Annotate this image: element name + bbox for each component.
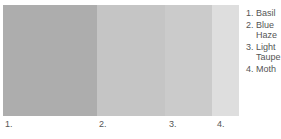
swatch-label-4: 4. xyxy=(217,119,225,130)
swatch-label-3: 3. xyxy=(169,119,177,130)
swatch-blue-haze xyxy=(97,5,165,116)
legend-name: Blue Haze xyxy=(256,20,281,40)
swatch-label-1: 1. xyxy=(5,119,13,130)
swatch-basil xyxy=(3,5,97,116)
legend-number: 4. xyxy=(246,64,256,74)
legend-item-basil: 1. Basil xyxy=(246,8,281,18)
legend-number: 1. xyxy=(246,8,256,18)
legend-number: 3. xyxy=(246,42,256,62)
legend-name: Basil xyxy=(256,8,281,18)
swatch-index-labels: 1. 2. 3. 4. xyxy=(0,119,245,133)
legend-item-moth: 4. Moth xyxy=(246,64,281,74)
color-palette-strip xyxy=(3,5,239,116)
legend-name: Moth xyxy=(256,64,281,74)
swatch-label-2: 2. xyxy=(99,119,107,130)
swatch-moth xyxy=(212,5,239,116)
legend-name: Light Taupe xyxy=(256,42,281,62)
legend-item-blue-haze: 2. Blue Haze xyxy=(246,20,281,40)
legend: 1. Basil 2. Blue Haze 3. Light Taupe 4. … xyxy=(246,8,281,76)
legend-number: 2. xyxy=(246,20,256,40)
legend-item-light-taupe: 3. Light Taupe xyxy=(246,42,281,62)
swatch-light-taupe xyxy=(165,5,212,116)
